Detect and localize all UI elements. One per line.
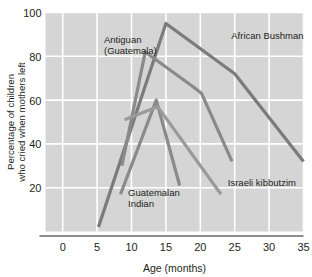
x-tick-label: 20: [194, 241, 206, 253]
x-tick-label: 10: [125, 241, 137, 253]
y-tick-label: 40: [29, 138, 41, 150]
series-annotation-1-line1: Antiguan: [104, 34, 142, 45]
x-tick-label: 0: [60, 241, 66, 253]
series-annotation-1-line2: (Guatemala): [104, 45, 157, 56]
x-tick-label: 35: [297, 241, 309, 253]
x-tick-label: 15: [160, 241, 172, 253]
x-tick-label: 30: [263, 241, 275, 253]
line-chart: 05101520253035 20406080100 African Bushm…: [0, 0, 312, 277]
y-tick-label: 20: [29, 182, 41, 194]
series-annotation-3: Israeli kibbutzim: [228, 177, 296, 188]
y-tick-label: 100: [23, 7, 41, 19]
chart-figure: 05101520253035 20406080100 African Bushm…: [0, 0, 312, 277]
series-annotation-0: African Bushman: [231, 30, 303, 41]
x-tick-label: 5: [94, 241, 100, 253]
x-axis-title: Age (months): [143, 262, 206, 274]
x-tick-label: 25: [229, 241, 241, 253]
y-axis-title: Percentage of children who cried when mo…: [5, 62, 27, 183]
y-axis-title-line1: Percentage of children: [5, 74, 16, 170]
y-tick-label: 80: [29, 51, 41, 63]
y-axis-title-line2: who cried when mothers left: [16, 62, 27, 183]
y-tick-label: 60: [29, 95, 41, 107]
plot-area-background: [46, 13, 304, 232]
series-annotation-2-line1: Guatemalan: [128, 187, 180, 198]
series-annotation-2-line2: Indian: [128, 198, 154, 209]
